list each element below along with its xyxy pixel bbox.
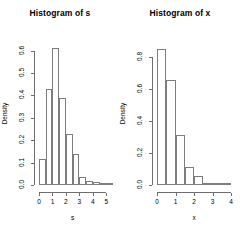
y-axis-tick-label: 0.8 xyxy=(136,48,143,64)
y-axis-tick xyxy=(31,95,34,96)
x-axis-tick-label: 0 xyxy=(151,198,163,205)
y-axis-tick-label: 0.4 xyxy=(136,112,143,128)
y-axis-title-x: Density xyxy=(119,93,126,133)
y-axis-line xyxy=(152,57,153,185)
histogram-bar xyxy=(59,98,66,185)
y-axis-title-s: Density xyxy=(1,93,8,133)
plot-area-s xyxy=(39,44,113,185)
histogram-bar xyxy=(203,183,212,185)
plot-area-x xyxy=(157,44,231,185)
histogram-bar xyxy=(86,181,93,185)
y-axis-tick-label: 0.1 xyxy=(18,154,25,170)
y-axis-tick-label: 0.3 xyxy=(18,109,25,125)
x-axis-tick xyxy=(194,193,195,196)
x-axis-tick-label: 3 xyxy=(207,198,219,205)
histogram-bar xyxy=(79,177,86,185)
y-axis-tick-label: 0.2 xyxy=(18,132,25,148)
y-axis-tick-label: 0.0 xyxy=(18,177,25,193)
x-axis-title-s: s xyxy=(19,214,126,221)
y-axis-tick xyxy=(149,153,152,154)
x-axis-tick-label: 3 xyxy=(73,198,85,205)
y-axis-tick-label: 0.0 xyxy=(136,177,143,193)
x-axis-tick-label: 2 xyxy=(60,198,72,205)
histogram-bar xyxy=(157,49,166,185)
histogram-panel-s: Histogram of s 0.00.10.20.30.40.50.60123… xyxy=(0,0,120,240)
x-axis-line xyxy=(39,192,106,193)
x-axis-tick xyxy=(213,193,214,196)
y-axis-tick xyxy=(149,121,152,122)
x-axis-tick xyxy=(66,193,67,196)
x-axis-tick-label: 1 xyxy=(170,198,182,205)
bars-group-s xyxy=(39,44,113,185)
histogram-panel-x: Histogram of x 0.00.20.40.60.801234 x De… xyxy=(120,0,240,240)
histogram-bar xyxy=(106,183,113,185)
x-axis-tick xyxy=(93,193,94,196)
y-axis-tick xyxy=(31,140,34,141)
x-axis-tick-label: 1 xyxy=(46,198,58,205)
bars-group-x xyxy=(157,44,231,185)
y-axis-tick-label: 0.5 xyxy=(18,65,25,81)
chart-title-s: Histogram of s xyxy=(0,8,120,18)
x-axis-tick xyxy=(157,193,158,196)
histogram-bar xyxy=(52,48,59,185)
figure-canvas: Histogram of s 0.00.10.20.30.40.50.60123… xyxy=(0,0,240,240)
x-axis-tick-label: 4 xyxy=(225,198,237,205)
x-axis-tick xyxy=(106,193,107,196)
x-axis-title-x: x xyxy=(137,214,240,221)
y-axis-tick xyxy=(149,57,152,58)
histogram-bar xyxy=(46,89,53,185)
y-axis-tick-label: 0.6 xyxy=(18,42,25,58)
histogram-bar xyxy=(222,183,231,185)
histogram-bar xyxy=(176,135,185,185)
y-axis-tick xyxy=(31,163,34,164)
x-axis-tick xyxy=(176,193,177,196)
x-axis-tick xyxy=(39,193,40,196)
x-axis-tick xyxy=(52,193,53,196)
x-axis-tick-label: 5 xyxy=(100,198,112,205)
histogram-bar xyxy=(39,159,46,185)
y-axis-tick-label: 0.6 xyxy=(136,80,143,96)
y-axis-tick xyxy=(31,185,34,186)
y-axis-tick xyxy=(149,185,152,186)
x-axis-tick-label: 2 xyxy=(188,198,200,205)
y-axis-tick-label: 0.2 xyxy=(136,144,143,160)
histogram-bar xyxy=(166,80,175,185)
histogram-bar xyxy=(66,134,73,185)
x-axis-tick xyxy=(79,193,80,196)
histogram-bar xyxy=(213,183,222,185)
histogram-bar xyxy=(73,154,80,185)
chart-title-x: Histogram of x xyxy=(120,8,240,18)
histogram-bar xyxy=(194,176,203,185)
y-axis-tick xyxy=(31,73,34,74)
histogram-bar xyxy=(100,183,107,185)
y-axis-line xyxy=(34,51,35,185)
y-axis-tick-label: 0.4 xyxy=(18,87,25,103)
x-axis-tick-label: 0 xyxy=(33,198,45,205)
histogram-bar xyxy=(93,182,100,185)
y-axis-tick xyxy=(31,118,34,119)
x-axis-tick xyxy=(231,193,232,196)
histogram-bar xyxy=(185,167,194,185)
y-axis-tick xyxy=(31,51,34,52)
x-axis-tick-label: 4 xyxy=(87,198,99,205)
y-axis-tick xyxy=(149,89,152,90)
